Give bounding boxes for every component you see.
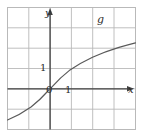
graph-canvas xyxy=(0,0,144,138)
y-tick-label-1: 1 xyxy=(40,63,46,73)
function-graph-figure: y x g 1 0 1 xyxy=(0,0,144,138)
x-tick-label-1: 1 xyxy=(65,85,71,95)
x-axis-label: x xyxy=(128,85,134,95)
y-axis-label: y xyxy=(45,8,51,18)
curve-label-g: g xyxy=(97,14,104,25)
origin-label: 0 xyxy=(46,85,52,95)
